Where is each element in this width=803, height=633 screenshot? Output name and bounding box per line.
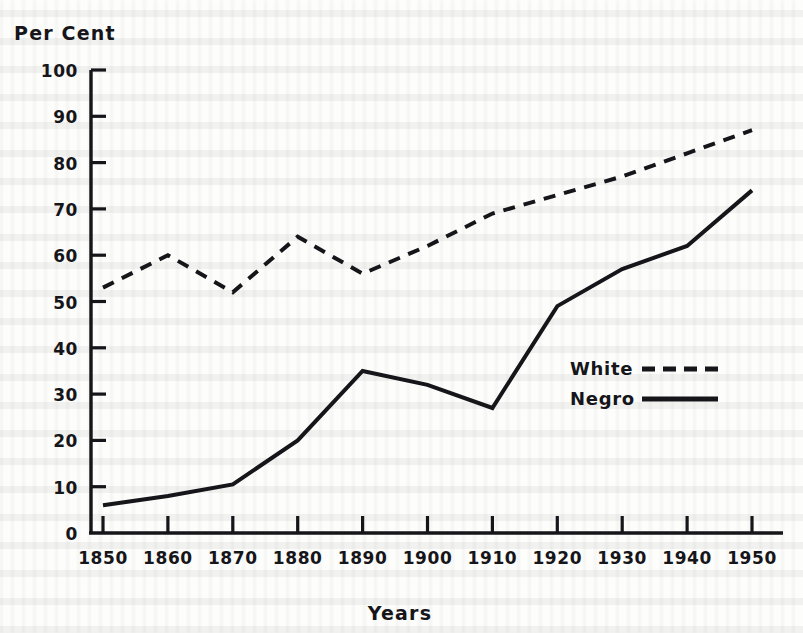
x-tick-label: 1950 xyxy=(727,548,777,568)
x-tick-label: 1860 xyxy=(143,548,193,568)
legend-label: Negro xyxy=(570,388,635,409)
x-tick-label: 1920 xyxy=(532,548,582,568)
x-axis-ticks: 1850186018701880189019001910192019301940… xyxy=(78,516,777,568)
y-tick-label: 100 xyxy=(41,61,78,81)
y-tick-label: 30 xyxy=(53,385,78,405)
x-tick-label: 1900 xyxy=(403,548,453,568)
x-tick-label: 1940 xyxy=(662,548,712,568)
x-tick-label: 1880 xyxy=(273,548,323,568)
x-axis-title: Years xyxy=(367,602,432,624)
line-chart: Per Cent 0102030405060708090100 18501860… xyxy=(0,0,803,633)
axis-lines xyxy=(89,70,783,533)
data-series-group xyxy=(103,130,752,505)
y-tick-label: 90 xyxy=(53,107,78,127)
x-tick-label: 1850 xyxy=(78,548,128,568)
y-tick-label: 0 xyxy=(66,524,78,544)
x-tick-label: 1910 xyxy=(468,548,518,568)
y-tick-label: 50 xyxy=(53,293,78,313)
x-tick-label: 1870 xyxy=(208,548,258,568)
y-tick-label: 60 xyxy=(53,246,78,266)
legend-label: White xyxy=(570,358,633,379)
chart-page: Per Cent 0102030405060708090100 18501860… xyxy=(0,0,803,633)
y-tick-label: 40 xyxy=(53,339,78,359)
y-axis-ticks: 0102030405060708090100 xyxy=(41,61,106,544)
y-tick-label: 80 xyxy=(53,154,78,174)
x-tick-label: 1930 xyxy=(597,548,647,568)
series-line xyxy=(103,130,752,292)
y-axis-title: Per Cent xyxy=(14,22,116,44)
x-tick-label: 1890 xyxy=(338,548,388,568)
y-tick-label: 20 xyxy=(53,431,78,451)
chart-legend: WhiteNegro xyxy=(570,358,718,409)
series-line xyxy=(103,190,752,505)
y-tick-label: 10 xyxy=(53,478,78,498)
y-tick-label: 70 xyxy=(53,200,78,220)
